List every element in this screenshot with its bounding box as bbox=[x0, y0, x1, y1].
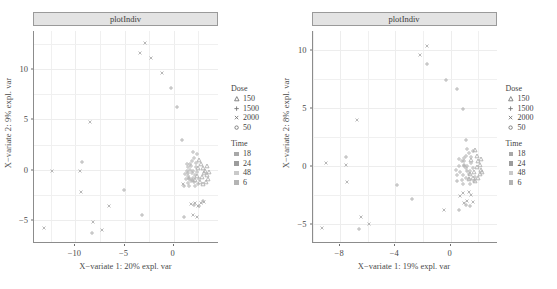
data-point bbox=[463, 202, 468, 207]
legend-label-time: 24 bbox=[242, 159, 251, 169]
data-point bbox=[472, 179, 476, 183]
data-point bbox=[184, 162, 188, 166]
data-point bbox=[206, 176, 211, 181]
gridline-horizontal bbox=[34, 119, 218, 120]
legend-item-time[interactable]: 24 bbox=[506, 159, 552, 169]
legend-item-time[interactable]: 18 bbox=[231, 149, 277, 159]
data-point bbox=[324, 160, 329, 165]
legend-title-dose: Dose bbox=[506, 84, 552, 93]
gridline-horizontal bbox=[313, 137, 497, 138]
data-point bbox=[425, 61, 430, 66]
data-point bbox=[190, 159, 194, 163]
data-point bbox=[183, 177, 187, 181]
data-point bbox=[466, 172, 470, 176]
x-axis-ticks-right: −8−40 bbox=[312, 244, 497, 260]
data-point bbox=[181, 214, 186, 219]
gridline-vertical bbox=[51, 31, 52, 242]
data-point bbox=[456, 208, 461, 213]
legend-item-dose[interactable]: 150 bbox=[506, 94, 552, 104]
x-tick-mark bbox=[339, 244, 340, 246]
data-point bbox=[205, 163, 210, 168]
panel-left: X−variate 2: 9% expl. var 1050−5 plotInd… bbox=[0, 0, 279, 289]
legend-label-dose: 150 bbox=[242, 94, 255, 104]
data-point bbox=[80, 159, 85, 164]
legend-item-time[interactable]: 24 bbox=[231, 159, 277, 169]
gridline-vertical bbox=[198, 31, 199, 242]
data-point bbox=[185, 174, 189, 178]
data-point bbox=[205, 172, 210, 177]
data-point bbox=[186, 181, 190, 185]
data-point bbox=[192, 180, 196, 184]
data-point bbox=[480, 169, 485, 174]
data-point bbox=[471, 149, 475, 153]
data-point bbox=[465, 199, 470, 204]
plot-area-left bbox=[33, 31, 218, 243]
data-point bbox=[441, 208, 446, 213]
data-point bbox=[193, 173, 197, 177]
legend-label-time: 18 bbox=[242, 149, 251, 159]
y-tick-label: −5 bbox=[19, 215, 28, 225]
data-point bbox=[187, 177, 191, 181]
legend-item-dose[interactable]: 50 bbox=[506, 123, 552, 133]
data-point bbox=[160, 71, 165, 76]
data-point bbox=[193, 184, 197, 188]
data-point bbox=[409, 196, 414, 201]
legend-item-time[interactable]: 6 bbox=[231, 178, 277, 188]
gridline-horizontal bbox=[34, 145, 218, 146]
legend-item-dose[interactable]: 2000 bbox=[231, 113, 277, 123]
data-point bbox=[201, 198, 206, 203]
data-point bbox=[468, 181, 472, 185]
legend-item-time[interactable]: 48 bbox=[231, 168, 277, 178]
data-point bbox=[193, 200, 198, 205]
legend-label-dose: 1500 bbox=[517, 104, 534, 114]
legend-label-time: 6 bbox=[517, 178, 522, 188]
data-point bbox=[204, 179, 209, 184]
y-axis-ticks-left: 1050−5 bbox=[14, 31, 31, 243]
gridline-vertical bbox=[174, 31, 175, 242]
legend-item-time[interactable]: 48 bbox=[506, 168, 552, 178]
y-tick-label: −5 bbox=[297, 219, 306, 229]
legend-item-dose[interactable]: 1500 bbox=[506, 104, 552, 114]
data-point bbox=[354, 117, 359, 122]
color-swatch-icon bbox=[231, 159, 242, 169]
data-point bbox=[464, 176, 468, 180]
gridline-horizontal bbox=[313, 166, 497, 167]
data-point bbox=[191, 149, 195, 153]
data-point bbox=[201, 181, 206, 186]
legend-label-dose: 150 bbox=[517, 94, 530, 104]
legend-item-dose[interactable]: 2000 bbox=[506, 113, 552, 123]
data-point bbox=[462, 201, 467, 206]
color-swatch-icon bbox=[231, 149, 242, 159]
data-point bbox=[181, 183, 186, 188]
y-tick-label: 0 bbox=[302, 161, 306, 171]
data-point bbox=[469, 155, 473, 159]
data-point bbox=[460, 178, 464, 182]
data-point bbox=[191, 212, 196, 217]
data-point bbox=[458, 170, 462, 174]
data-point bbox=[469, 161, 473, 165]
y-tick-label: 5 bbox=[302, 103, 306, 113]
data-point bbox=[187, 184, 191, 188]
legend-item-time[interactable]: 6 bbox=[506, 178, 552, 188]
strip-label-right: plotIndiv bbox=[388, 14, 419, 24]
gridline-horizontal bbox=[34, 195, 218, 196]
legend-item-dose[interactable]: 150 bbox=[231, 94, 277, 104]
legend-item-time[interactable]: 18 bbox=[506, 149, 552, 159]
data-point bbox=[179, 137, 184, 142]
y-tick-label: 5 bbox=[24, 114, 28, 124]
color-swatch-icon bbox=[506, 149, 517, 159]
data-point bbox=[465, 147, 469, 151]
data-point bbox=[455, 179, 460, 184]
data-point bbox=[190, 177, 195, 182]
legend-item-dose[interactable]: 50 bbox=[231, 123, 277, 133]
legend-label-time: 48 bbox=[517, 168, 526, 178]
triangle-icon bbox=[506, 94, 517, 104]
legend-item-dose[interactable]: 1500 bbox=[231, 104, 277, 114]
legend-left: Dose1501500200050Time1824486 bbox=[231, 84, 277, 187]
gridline-vertical bbox=[100, 31, 101, 242]
color-swatch-icon bbox=[506, 178, 517, 188]
gridline-horizontal bbox=[313, 224, 497, 225]
x-axis-title-right: X−variate 1: 19% expl. var bbox=[312, 261, 497, 271]
triangle-icon bbox=[231, 94, 242, 104]
data-point bbox=[462, 159, 466, 163]
